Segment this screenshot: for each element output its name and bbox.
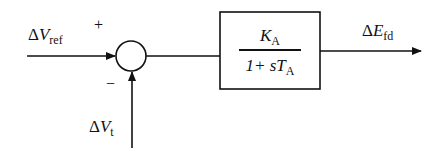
- feedback-subscript: t: [110, 125, 113, 139]
- summing-junction: [116, 41, 146, 71]
- plus-sign: +: [94, 17, 103, 33]
- denominator-prefix: 1+ s: [246, 56, 277, 75]
- reference-subscript: ref: [49, 33, 62, 47]
- gain-subscript: A: [271, 34, 280, 48]
- delta-symbol: Δ: [362, 21, 373, 40]
- delta-symbol: Δ: [28, 25, 39, 44]
- feedback-input-label: ΔVt: [89, 118, 114, 135]
- gain-symbol: K: [260, 26, 271, 45]
- minus-sign: −: [106, 76, 115, 92]
- feedback-symbol: V: [100, 117, 110, 136]
- output-symbol: E: [373, 21, 383, 40]
- output-label: ΔEfd: [362, 22, 393, 39]
- transfer-numerator: KA: [260, 27, 280, 44]
- reference-symbol: V: [39, 25, 49, 44]
- fraction-bar: [239, 49, 301, 51]
- reference-input-label: ΔVref: [28, 26, 63, 43]
- delta-symbol: Δ: [89, 117, 100, 136]
- output-subscript: fd: [383, 29, 393, 43]
- transfer-denominator: 1+ sTA: [246, 57, 295, 74]
- time-constant-subscript: A: [286, 64, 295, 78]
- transfer-function: KA 1+ sTA: [220, 12, 320, 89]
- time-constant-symbol: T: [276, 56, 285, 75]
